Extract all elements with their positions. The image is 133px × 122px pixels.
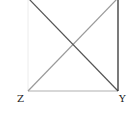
point-label-y: Y	[119, 94, 126, 104]
point-label-z: Z	[17, 94, 24, 104]
